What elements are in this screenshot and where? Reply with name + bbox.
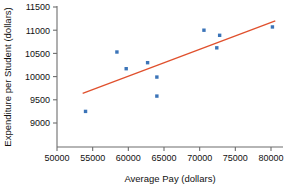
y-tick-label: 9500 [30,95,50,105]
y-tick-label: 9000 [30,118,50,128]
regression-line [83,21,276,93]
y-axis: 9000950010000105001100011500 [25,2,57,147]
plot-canvas: 9000950010000105001100011500 50000550006… [0,0,285,187]
y-axis-tick-labels: 9000950010000105001100011500 [25,2,50,128]
x-axis-ticks [57,147,271,151]
trend-line-group [83,21,276,93]
x-tick-label: 65000 [151,153,176,163]
y-axis-title: Expenditure per Student (dollars) [2,7,13,146]
data-point [115,50,118,53]
x-axis: 50000550006000065000700007500080000 [44,147,283,163]
x-axis-title: Average Pay (dollars) [124,173,215,184]
y-tick-label: 11000 [26,26,50,36]
y-tick-label: 11500 [26,2,50,12]
data-point [146,61,149,64]
y-tick-label: 10500 [25,49,50,59]
x-tick-label: 70000 [187,153,212,163]
x-tick-label: 60000 [116,153,141,163]
data-point [155,75,158,78]
scatter-plot-figure: 9000950010000105001100011500 50000550006… [0,0,285,187]
data-points-group [84,25,274,113]
data-point [271,25,274,28]
x-tick-label: 75000 [223,153,248,163]
x-tick-label: 80000 [258,153,283,163]
data-point [202,29,205,32]
data-point [124,67,127,70]
x-axis-tick-labels: 50000550006000065000700007500080000 [44,153,283,163]
data-point [155,94,158,97]
x-tick-label: 50000 [44,153,69,163]
data-point [218,34,221,37]
data-point [215,46,218,49]
y-axis-ticks [53,7,57,123]
x-tick-label: 55000 [80,153,105,163]
data-point [84,110,87,113]
y-tick-label: 10000 [25,72,50,82]
